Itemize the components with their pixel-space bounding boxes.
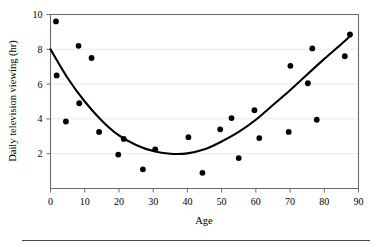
data-point: [256, 135, 262, 141]
y-tick-label-10: 10: [33, 9, 43, 20]
plot-frame: [51, 15, 359, 189]
data-point: [288, 63, 294, 69]
data-point: [314, 117, 320, 123]
data-point: [309, 46, 315, 52]
data-point: [54, 73, 60, 79]
y-axis-title: Daily television viewing (hr): [7, 40, 19, 162]
data-point: [76, 43, 82, 49]
data-point: [342, 53, 348, 59]
data-point: [186, 134, 192, 140]
x-tick-label-80: 80: [319, 196, 329, 207]
data-point: [286, 129, 292, 135]
data-point: [63, 119, 69, 125]
data-point: [252, 107, 258, 113]
x-tick-label-0: 0: [48, 196, 53, 207]
data-point: [200, 170, 206, 176]
data-point: [53, 19, 59, 25]
axes-group: [51, 15, 359, 189]
x-axis-title: Age: [195, 215, 213, 226]
regression-curve: [51, 35, 352, 154]
data-point: [121, 136, 127, 142]
x-tick-label-10: 10: [80, 196, 90, 207]
data-points-group: [53, 19, 353, 176]
data-point: [217, 126, 223, 132]
data-point: [236, 155, 242, 161]
x-tick-label-40: 40: [182, 196, 192, 207]
y-tick-label-8: 8: [38, 44, 43, 55]
data-point: [229, 115, 235, 121]
data-point: [152, 146, 158, 152]
x-tick-label-90: 90: [354, 196, 364, 207]
y-tick-label-2: 2: [38, 148, 43, 159]
y-tick-label-4: 4: [38, 113, 43, 124]
data-point: [96, 129, 102, 135]
x-tick-label-60: 60: [251, 196, 261, 207]
data-point: [115, 152, 121, 158]
data-point: [76, 100, 82, 106]
y-tick-label-6: 6: [38, 79, 43, 90]
x-axis-ticks-group: 0102030405060708090: [48, 189, 364, 207]
chart-canvas: 0102030405060708090 246810 Age Daily tel…: [0, 0, 390, 247]
data-point: [305, 80, 311, 86]
scatter-plot-figure: 0102030405060708090 246810 Age Daily tel…: [0, 0, 390, 247]
x-tick-label-50: 50: [217, 196, 227, 207]
x-tick-label-70: 70: [285, 196, 295, 207]
y-axis-ticks-group: 246810: [33, 9, 51, 159]
x-tick-label-30: 30: [148, 196, 158, 207]
x-tick-label-20: 20: [114, 196, 124, 207]
data-point: [140, 166, 146, 172]
data-point: [347, 32, 353, 38]
data-point: [89, 55, 95, 61]
